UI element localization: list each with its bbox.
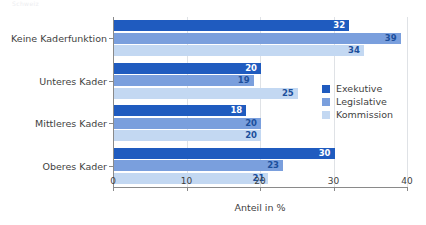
legend-item[interactable]: Exekutive (322, 82, 393, 95)
bar-chart: Schweiz 323934201925182020302321 0102030… (0, 0, 426, 225)
bar-value-label: 19 (238, 75, 250, 86)
x-tick-label: 10 (181, 176, 192, 186)
legend-item[interactable]: Legislative (322, 95, 393, 108)
bar (114, 148, 335, 159)
bar (114, 105, 246, 116)
category-tick (109, 166, 113, 167)
x-tick-label: 0 (110, 176, 116, 186)
category-label: Keine Kaderfunktion (11, 33, 107, 44)
bar (114, 88, 298, 99)
bar (114, 45, 364, 56)
x-tick-label: 40 (401, 176, 412, 186)
bar-value-label: 20 (245, 63, 257, 74)
legend-label: Legislative (336, 96, 387, 107)
bar-value-label: 18 (230, 105, 242, 116)
gridline (407, 17, 408, 187)
x-tick-label: 20 (254, 176, 265, 186)
bar (114, 75, 254, 86)
legend-label: Kommission (336, 109, 393, 120)
category-label: Unteres Kader (39, 75, 107, 86)
x-tick-mark (334, 187, 335, 191)
bar-value-label: 30 (319, 148, 331, 159)
legend-label: Exekutive (336, 83, 382, 94)
x-tick-mark (407, 187, 408, 191)
bar-value-label: 39 (385, 33, 397, 44)
legend-item[interactable]: Kommission (322, 108, 393, 121)
x-axis-title: Anteil in % (113, 202, 407, 213)
x-tick-label: 30 (328, 176, 339, 186)
bar-value-label: 23 (267, 160, 279, 171)
legend-swatch (322, 98, 330, 106)
bar (114, 20, 349, 31)
caption-remnant: Schweiz (12, 0, 39, 7)
x-tick-mark (187, 187, 188, 191)
x-tick-mark (260, 187, 261, 191)
bar (114, 118, 261, 129)
category-tick (109, 38, 113, 39)
bar (114, 63, 261, 74)
bar-value-label: 20 (245, 118, 257, 129)
bar-value-label: 32 (333, 20, 345, 31)
bar-value-label: 34 (348, 45, 360, 56)
x-tick-mark (113, 187, 114, 191)
category-label: Mittleres Kader (35, 118, 107, 129)
legend-swatch (322, 111, 330, 119)
bar (114, 33, 401, 44)
bar (114, 130, 261, 141)
legend-swatch (322, 85, 330, 93)
category-tick (109, 123, 113, 124)
bar-value-label: 25 (282, 88, 294, 99)
category-label: Oberes Kader (42, 160, 107, 171)
chart-legend: ExekutiveLegislativeKommission (322, 82, 393, 121)
category-tick (109, 81, 113, 82)
bar-value-label: 20 (245, 130, 257, 141)
bar (114, 160, 283, 171)
